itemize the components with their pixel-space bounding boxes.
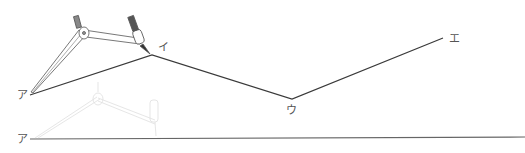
label-u: ウ	[286, 104, 297, 117]
compass-ghost-icon	[35, 82, 158, 138]
compass-icon	[31, 15, 150, 93]
baseline	[30, 137, 525, 139]
label-a-bottom: ア	[17, 133, 28, 146]
diagram-canvas: ア イ ウ エ ア	[0, 0, 525, 153]
label-a-top: ア	[17, 89, 28, 102]
label-i: イ	[158, 41, 169, 54]
label-e: エ	[449, 32, 460, 45]
polyline-a-i-u-e	[30, 38, 443, 99]
